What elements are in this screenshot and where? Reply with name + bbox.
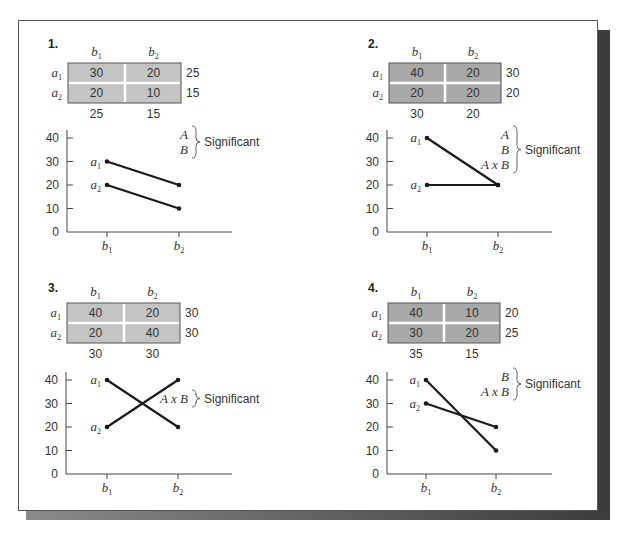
panel-number: 2. [368, 37, 378, 51]
effect-label: A [179, 127, 188, 142]
series-label-a2: a2 [411, 177, 422, 194]
significant-label: Significant [204, 135, 260, 149]
series-label-a2: a2 [91, 419, 102, 436]
column-mean: 25 [90, 107, 104, 121]
row-mean: 25 [186, 66, 200, 80]
significance-annotation: ABA x BSignificant [480, 126, 581, 173]
interaction-figure: 1.b1b2a1302025a22010152515010203040b1b2a… [0, 0, 627, 535]
column-header-b1: b1 [412, 44, 423, 61]
row-mean: 30 [185, 306, 199, 320]
y-tick-label: 20 [46, 178, 60, 192]
row-label-a1: a1 [372, 305, 383, 322]
table-cell: 20 [465, 326, 479, 340]
brace-icon [513, 368, 521, 400]
table-cell: 30 [90, 66, 104, 80]
data-point [105, 425, 110, 430]
column-mean: 15 [147, 107, 161, 121]
significance-annotation: ABSignificant [179, 126, 260, 158]
series-label-a1: a1 [410, 372, 421, 389]
x-tick-label-b1: b1 [422, 238, 433, 255]
data-point [496, 183, 501, 188]
brace-icon [192, 390, 200, 407]
column-header-b1: b1 [411, 284, 422, 301]
table-cell: 20 [90, 86, 104, 100]
effect-label: B [501, 142, 509, 157]
x-tick-label-b2: b2 [174, 238, 185, 255]
x-tick-label-b1: b1 [102, 480, 113, 497]
means-table: b1b2a1401020a23020253515 [372, 284, 519, 361]
column-header-b1: b1 [90, 284, 101, 301]
data-point [424, 401, 429, 406]
table-cell: 40 [410, 66, 424, 80]
y-tick-label: 30 [46, 155, 60, 169]
effect-label: B [501, 369, 509, 384]
y-tick-label: 30 [45, 397, 59, 411]
panel-1: 1.b1b2a1302025a22010152515010203040b1b2a… [46, 37, 260, 255]
table-cell: 10 [147, 86, 161, 100]
table-cell: 20 [466, 86, 480, 100]
y-tick-label: 10 [366, 444, 380, 458]
row-label-a2: a2 [52, 85, 63, 102]
x-tick-label-b1: b1 [421, 480, 432, 497]
column-header-b2: b2 [467, 284, 478, 301]
data-point [494, 448, 499, 453]
panel-3: 3.b1b2a1402030a22040303030010203040b1b2a… [45, 281, 260, 497]
row-mean: 30 [506, 66, 520, 80]
panel-number: 3. [48, 281, 58, 295]
data-point [105, 159, 110, 164]
means-table: b1b2a1302025a22010152515 [52, 44, 200, 121]
table-cell: 40 [89, 306, 103, 320]
series-label-a1: a1 [91, 154, 102, 171]
column-header-b2: b2 [148, 44, 159, 61]
effect-label: A x B [480, 157, 509, 172]
x-tick-label-b2: b2 [491, 480, 502, 497]
row-label-a1: a1 [373, 65, 384, 82]
table-cell: 40 [409, 306, 423, 320]
row-label-a1: a1 [52, 65, 63, 82]
y-tick-label: 20 [366, 420, 380, 434]
y-tick-label: 10 [366, 202, 380, 216]
row-label-a2: a2 [372, 325, 383, 342]
brace-icon [192, 126, 200, 158]
column-mean: 30 [89, 347, 103, 361]
y-tick-label: 20 [45, 420, 59, 434]
panel-number: 4. [368, 281, 378, 295]
table-cell: 10 [465, 306, 479, 320]
y-tick-label: 40 [45, 373, 59, 387]
y-tick-label: 10 [46, 202, 60, 216]
data-point [177, 206, 182, 211]
table-cell: 20 [89, 326, 103, 340]
means-table: b1b2a1402030a22040303030 [51, 284, 199, 361]
y-tick-label: 40 [46, 131, 60, 145]
series-label-a2: a2 [410, 396, 421, 413]
data-point [424, 378, 429, 383]
column-mean: 20 [466, 107, 480, 121]
row-mean: 20 [505, 306, 519, 320]
column-header-b2: b2 [147, 284, 158, 301]
data-point [425, 136, 430, 141]
significant-label: Significant [204, 392, 260, 406]
series-line-a1 [107, 162, 179, 186]
table-cell: 20 [147, 66, 161, 80]
y-tick-label: 0 [372, 225, 379, 239]
effect-label: A x B [480, 384, 509, 399]
data-point [177, 183, 182, 188]
row-label-a1: a1 [51, 305, 62, 322]
data-point [176, 425, 181, 430]
panel-number: 1. [48, 37, 58, 51]
series-label-a1: a1 [411, 130, 422, 147]
significance-annotation: BA x BSignificant [480, 368, 581, 400]
panel-4: 4.b1b2a1401020a23020253515010203040b1b2a… [366, 281, 581, 497]
x-tick-label-b2: b2 [173, 480, 184, 497]
table-cell: 20 [410, 86, 424, 100]
y-tick-label: 0 [372, 467, 379, 481]
panel-2: 2.b1b2a1402030a22020203020010203040b1b2a… [366, 37, 581, 255]
series-line-a2 [426, 404, 496, 428]
y-tick-label: 40 [366, 131, 380, 145]
y-tick-label: 20 [366, 178, 380, 192]
y-tick-label: 40 [366, 373, 380, 387]
row-mean: 15 [186, 86, 200, 100]
brace-icon [513, 126, 521, 173]
means-table: b1b2a1402030a22020203020 [373, 44, 520, 121]
column-mean: 30 [146, 347, 160, 361]
